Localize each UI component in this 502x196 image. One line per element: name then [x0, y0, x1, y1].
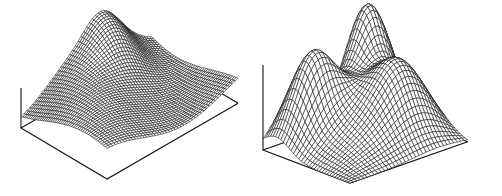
surface-plots-figure — [0, 0, 502, 196]
surface-mesh — [21, 10, 238, 148]
right-surface-plot — [263, 4, 468, 184]
surface-mesh — [263, 4, 468, 184]
left-surface-plot — [21, 10, 238, 179]
